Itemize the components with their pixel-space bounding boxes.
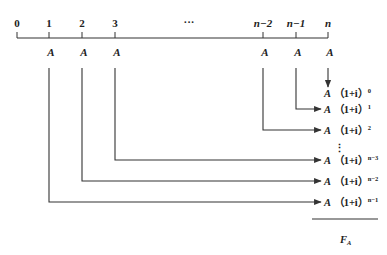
payment-label-n-minus-2: A bbox=[260, 46, 268, 58]
period-label-n: n bbox=[325, 17, 331, 29]
svg-text:A （1+i）n−1: A （1+i）n−1 bbox=[323, 196, 378, 208]
period-label-3: 3 bbox=[112, 17, 118, 29]
arrow-period-3 bbox=[115, 68, 321, 160]
svg-text:A （1+i）1: A （1+i）1 bbox=[323, 103, 371, 115]
period-label-n-minus-1: n−1 bbox=[287, 17, 305, 29]
future-value-annuity-diagram: 0 1 2 3 ··· n−2 n−1 n A A A A A A A （1+i… bbox=[0, 0, 387, 255]
svg-text:A （1+i）0: A （1+i）0 bbox=[323, 87, 371, 99]
result-row-1: A （1+i）1 bbox=[323, 103, 371, 115]
result-row-n-minus-3: A （1+i）n−3 bbox=[323, 154, 379, 166]
result-row-n-minus-2: A （1+i）n−2 bbox=[323, 175, 378, 187]
period-label-2: 2 bbox=[79, 17, 85, 29]
arrow-period-n-minus-1 bbox=[296, 68, 321, 109]
svg-text:A （1+i）n−2: A （1+i）n−2 bbox=[323, 175, 378, 187]
result-row-0: A （1+i）0 bbox=[323, 87, 371, 99]
payment-label-2: A bbox=[79, 46, 87, 58]
payment-label-1: A bbox=[46, 46, 54, 58]
period-label-0: 0 bbox=[14, 17, 20, 29]
period-label-n-minus-2: n−2 bbox=[254, 17, 273, 29]
payment-label-3: A bbox=[112, 46, 120, 58]
timeline-axis bbox=[17, 32, 328, 38]
svg-text:A （1+i）n−3: A （1+i）n−3 bbox=[323, 154, 379, 166]
svg-text:A （1+i）2: A （1+i）2 bbox=[323, 124, 371, 136]
timeline-ellipsis: ··· bbox=[183, 16, 194, 28]
payment-label-n: A bbox=[325, 46, 333, 58]
arrow-period-1 bbox=[49, 68, 321, 202]
period-label-1: 1 bbox=[46, 17, 52, 29]
payment-label-n-minus-1: A bbox=[293, 46, 301, 58]
vertical-ellipsis: ⋮ bbox=[334, 143, 345, 154]
total-future-value: FA bbox=[339, 234, 352, 246]
arrow-period-n-minus-2 bbox=[263, 68, 321, 130]
arrow-period-2 bbox=[82, 68, 321, 181]
result-row-2: A （1+i）2 bbox=[323, 124, 371, 136]
result-row-n-minus-1: A （1+i）n−1 bbox=[323, 196, 378, 208]
